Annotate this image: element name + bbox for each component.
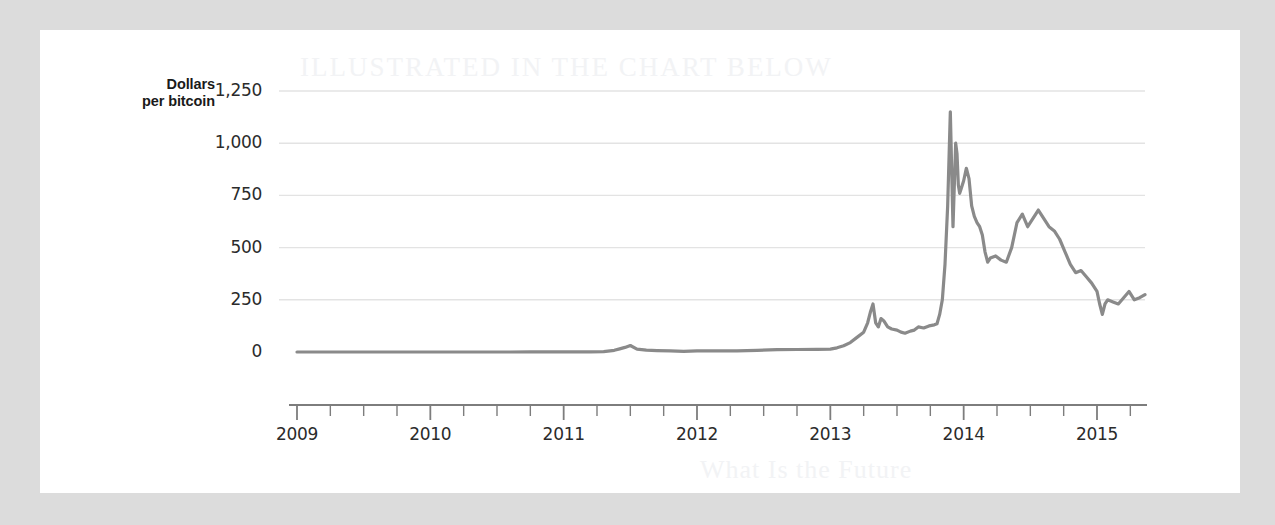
chart-screenshot: ILLUSTRATED IN THE CHART BELOW What Is t… <box>0 0 1275 525</box>
gridlines <box>279 91 1145 300</box>
bitcoin-price-line <box>297 112 1145 352</box>
x-axis-minor-ticks <box>330 405 1130 416</box>
y-tick-label: 250 <box>192 289 262 309</box>
y-tick-label: 0 <box>192 341 262 361</box>
x-tick-label: 2010 <box>390 424 470 444</box>
line-chart <box>0 0 1275 525</box>
x-tick-label: 2013 <box>790 424 870 444</box>
x-tick-label: 2009 <box>257 424 337 444</box>
x-axis-major-ticks <box>297 405 1097 420</box>
y-tick-label: 1,250 <box>192 80 262 100</box>
x-tick-label: 2015 <box>1057 424 1137 444</box>
y-tick-label: 750 <box>192 184 262 204</box>
y-tick-label: 500 <box>192 237 262 257</box>
y-tick-label: 1,000 <box>192 132 262 152</box>
x-tick-label: 2014 <box>924 424 1004 444</box>
x-tick-label: 2012 <box>657 424 737 444</box>
x-tick-label: 2011 <box>524 424 604 444</box>
